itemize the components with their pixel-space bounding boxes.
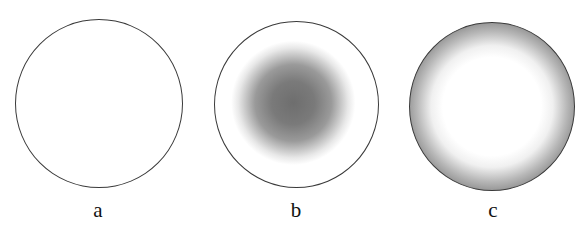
panel-label-c: c bbox=[478, 198, 508, 223]
panel-label-a: a bbox=[83, 198, 113, 223]
disc-c bbox=[409, 22, 575, 191]
disc-a bbox=[15, 19, 183, 188]
panel-label-b: b bbox=[281, 198, 311, 223]
disc-b bbox=[214, 21, 379, 188]
